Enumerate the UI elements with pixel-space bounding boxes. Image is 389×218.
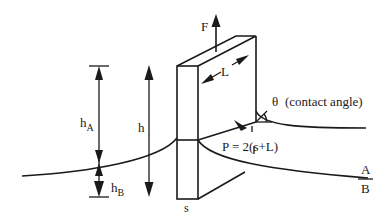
height-b-label: hB xyxy=(111,180,125,198)
arrow-down-icon xyxy=(145,182,154,197)
arrow-up-right-icon xyxy=(236,55,249,65)
phase-a-label: A xyxy=(361,162,371,177)
arrow-up-icon xyxy=(145,65,154,80)
plate-bottom-edge xyxy=(198,172,245,199)
contact-angle: θ (contact angle) xyxy=(256,94,363,122)
theta-symbol: θ xyxy=(272,94,278,109)
plate xyxy=(177,36,256,199)
perimeter-label: P = 2(s+L) xyxy=(222,139,278,154)
height-total-label: h xyxy=(138,120,145,135)
interface-curves xyxy=(22,111,368,178)
height-a-b-dimension: hA hB xyxy=(80,66,125,198)
height-a-label: hA xyxy=(80,115,95,133)
arrow-down-left-icon xyxy=(201,74,214,84)
length-label: L xyxy=(221,64,229,79)
arrow-up-icon xyxy=(95,163,103,176)
force-arrow: F xyxy=(201,14,221,52)
contact-angle-label: (contact angle) xyxy=(285,94,363,109)
arrow-up-icon xyxy=(212,14,221,27)
contact-line-upper xyxy=(198,122,256,140)
arrow-up-icon xyxy=(95,66,103,80)
force-label: F xyxy=(201,19,208,34)
arrow-down-icon xyxy=(95,150,103,163)
phase-b-label: B xyxy=(361,181,370,196)
length-arrow: L xyxy=(201,55,249,84)
perimeter-pointer: P = 2(s+L) xyxy=(222,120,278,154)
plate-front-face xyxy=(177,66,198,199)
thickness-label: s xyxy=(184,201,189,215)
wilhelmy-plate-diagram: F L θ (contact angle) P = 2(s+L) xyxy=(0,0,389,218)
height-total-dimension: h xyxy=(138,65,154,197)
arrow-down-icon xyxy=(94,181,104,197)
interface-right-upper xyxy=(256,111,366,128)
phase-labels: A B xyxy=(358,162,373,196)
